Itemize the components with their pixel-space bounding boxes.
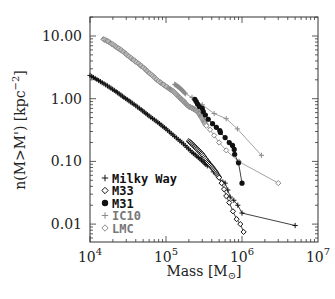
x-tick-label: 104 — [78, 246, 102, 265]
legend-label: LMC — [112, 222, 134, 236]
legend: Milky WayM33M31IC10LMC — [102, 172, 177, 236]
x-tick-label: 106 — [230, 246, 254, 265]
y-axis-title: n(M>M') [kpc−2] — [10, 70, 28, 190]
x-tick-label: 107 — [306, 246, 330, 265]
y-tick-label: 1.00 — [51, 91, 82, 107]
log-log-chart: 104105106107 10.001.000.100.01 Mass [M⊙]… — [0, 0, 335, 299]
x-axis-title: Mass [M⊙] — [166, 263, 241, 281]
y-tick-label: 0.01 — [51, 216, 82, 232]
y-tick-label: 10.00 — [42, 28, 82, 44]
y-tick-labels: 10.001.000.100.01 — [42, 28, 82, 232]
legend-item-lmc: LMC — [102, 222, 134, 236]
y-tick-label: 0.10 — [51, 153, 82, 169]
series-lmc — [101, 37, 281, 186]
